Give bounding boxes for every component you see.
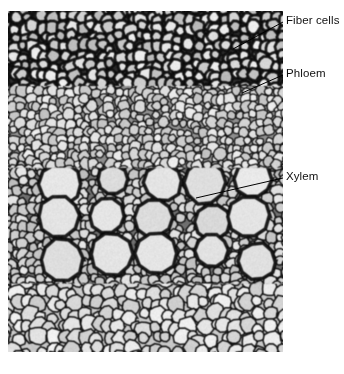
label-xylem: Xylem <box>286 170 318 182</box>
label-fiber-cells: Fiber cells <box>286 14 340 26</box>
micrograph-canvas <box>8 11 283 352</box>
label-phloem: Phloem <box>286 67 326 79</box>
micrograph-figure: Fiber cells Phloem Xylem <box>0 0 344 374</box>
plant-stem-cross-section-image <box>8 11 283 352</box>
